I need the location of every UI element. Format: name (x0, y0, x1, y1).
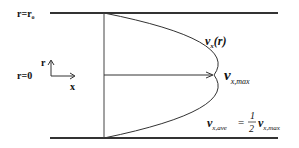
profile-label: vx(r) (205, 34, 227, 50)
svg-text:2: 2 (249, 123, 254, 134)
r-axis-label: r (41, 57, 46, 68)
pipe-flow-diagram: r=ro r=0 r x vx(r) vx,max vx,ave = 1 2 v… (0, 0, 299, 148)
svg-text:1: 1 (250, 110, 255, 121)
svg-text:=: = (238, 116, 244, 128)
svg-text:vx,max: vx,max (258, 116, 281, 132)
svg-text:vx,ave: vx,ave (207, 116, 227, 132)
average-velocity-equation: vx,ave = 1 2 vx,max (207, 110, 281, 134)
x-axis-label: x (70, 81, 75, 92)
centerline-label: r=0 (17, 70, 32, 81)
vmax-label: vx,max (224, 67, 250, 86)
wall-radius-label: r=ro (17, 8, 35, 20)
